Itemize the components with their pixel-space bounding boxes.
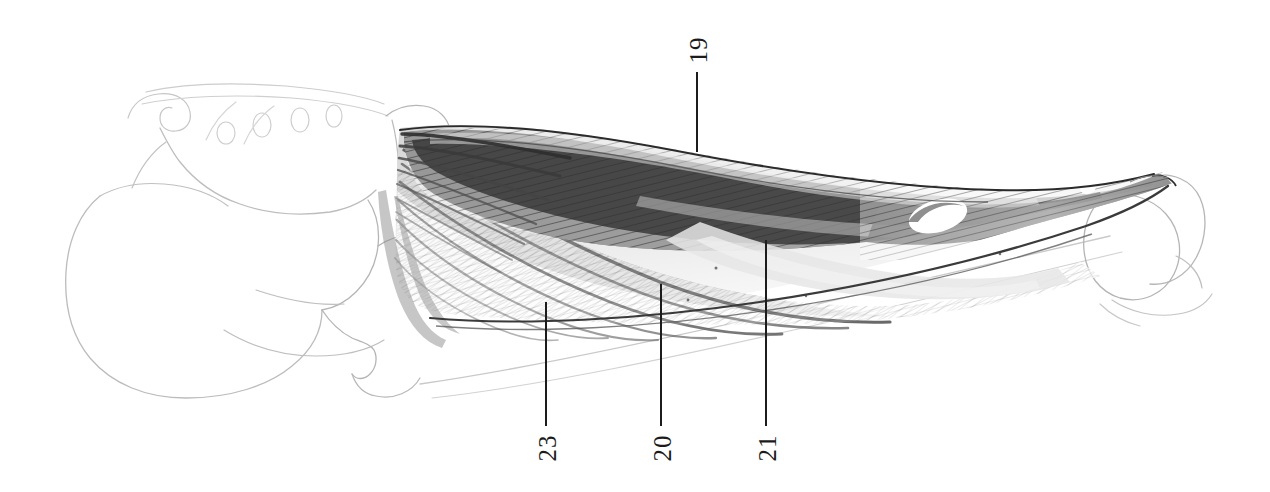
label-text-23: 23 [535,436,560,462]
leader-line-20 [660,284,662,426]
sacral-foramen-4 [326,105,342,127]
leader-line-23 [545,302,547,426]
sacrum-outline [128,94,190,131]
iliac-blade [66,196,322,398]
ischium-outline [322,310,376,379]
label-text-20: 20 [650,436,675,462]
muscle-mass [378,118,1190,348]
anatomical-plate: 19 23 20 21 [0,0,1270,492]
femoral-condyle-outline [1150,175,1205,284]
anatomy-figure [0,0,1270,492]
distal-tendon [860,170,1190,260]
leader-line-21 [765,240,767,426]
label-text-19: 19 [686,38,711,64]
ilium-outline [160,128,376,214]
lateral-condyle [1084,194,1180,300]
sacral-foramen-1 [217,122,235,144]
label-text-21: 21 [755,436,780,462]
acetabulum-outline [322,200,379,310]
leader-line-19 [696,72,698,152]
sacral-foramen-3 [291,108,309,132]
